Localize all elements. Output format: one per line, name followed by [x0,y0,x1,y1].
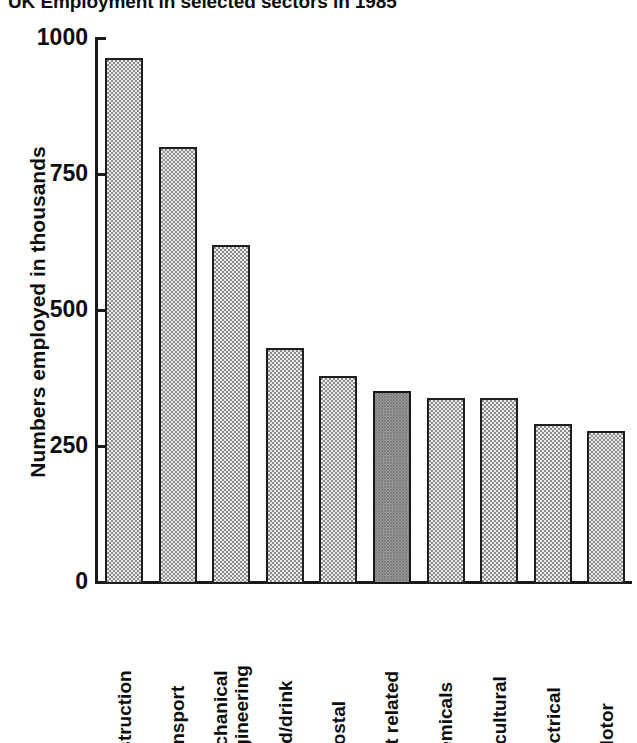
y-axis-tick-label: 0 [0,570,88,593]
bar [212,245,250,584]
bar [319,376,357,584]
bar [480,398,518,584]
bar-chart-plot-area: 02505007501000 Numbers employed in thous… [0,0,637,743]
x-axis-category-label: Electrical [526,592,580,740]
bar [534,424,572,584]
bar [266,348,304,584]
x-axis-category-label: Agricultural [472,592,526,740]
x-axis-category-label: Transport [151,592,205,740]
y-axis-tick-label: 1000 [0,26,88,49]
x-axis-category-label: Mechanicalengineering [204,592,258,740]
bar [587,431,625,584]
x-axis-category-label: Construction [97,592,151,740]
x-axis-category-label: Postal [311,592,365,740]
bar [159,147,197,584]
bar [373,391,411,584]
bar [427,398,465,584]
x-axis-category-label: Motor [579,592,633,740]
y-axis-title: Numbers employed in thousands [26,102,50,522]
x-axis-category-label: Sport related [365,592,419,740]
x-axis-category-label: Food/drink [258,592,312,740]
y-axis-tick [95,37,106,40]
bar [105,58,143,584]
x-axis-category-label: Chemicals [419,592,473,740]
